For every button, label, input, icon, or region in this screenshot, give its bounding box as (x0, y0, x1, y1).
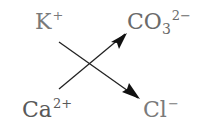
arrowhead-icon (122, 83, 140, 99)
exchange-arrows (0, 0, 212, 132)
arrowhead-icon (111, 33, 127, 49)
arrow-ca-to-co3 (59, 33, 127, 89)
arrow-k-to-cl (59, 42, 140, 99)
